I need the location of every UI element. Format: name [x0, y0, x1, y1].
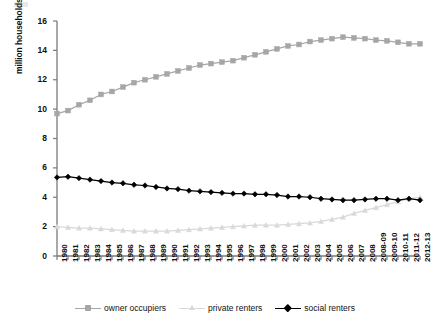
data-point — [330, 36, 335, 41]
data-point — [385, 38, 390, 43]
legend-entry[interactable]: owner occupiers — [75, 303, 166, 313]
data-point — [164, 186, 169, 191]
data-point — [120, 181, 125, 186]
x-axis-tick-label: 1983 — [93, 244, 102, 262]
data-point — [297, 42, 302, 47]
x-axis-tick-label: 1988 — [148, 244, 157, 262]
data-point — [98, 178, 103, 183]
x-axis-tick-label: 2011-12 — [412, 233, 421, 262]
x-axis-tick-label: 1981 — [71, 244, 80, 262]
x-axis-tick-label: 2002 — [302, 244, 311, 262]
x-axis-tick-label: 2000 — [280, 244, 289, 262]
x-axis-tick-label: 1985 — [115, 244, 124, 262]
data-point — [264, 49, 269, 54]
x-axis-tick-label: 2007 — [357, 244, 366, 262]
data-point — [341, 35, 346, 40]
data-point — [99, 92, 104, 97]
legend-swatch-icon — [179, 304, 205, 312]
x-axis-tick-label: 1984 — [104, 244, 113, 262]
x-axis-tick-label: 1991 — [181, 244, 190, 262]
x-axis-tick-label: 1993 — [203, 244, 212, 262]
legend-entry[interactable]: social renters — [275, 303, 355, 313]
data-point — [165, 71, 170, 76]
x-axis-tick-label: 1986 — [126, 244, 135, 262]
data-point — [153, 184, 158, 189]
data-point — [186, 188, 191, 193]
legend-swatch-icon — [275, 304, 301, 312]
data-point — [384, 196, 389, 201]
data-point — [65, 174, 70, 179]
data-point — [286, 44, 291, 49]
legend-label: owner occupiers — [104, 303, 166, 313]
data-point — [197, 189, 202, 194]
x-axis-tick-label: 1982 — [82, 244, 91, 262]
data-point — [296, 194, 301, 199]
data-point — [76, 175, 81, 180]
data-point — [230, 191, 235, 196]
data-point — [351, 197, 356, 202]
data-point — [275, 47, 280, 52]
data-point — [131, 182, 136, 187]
legend-label: private renters — [208, 303, 262, 313]
chart-legend: owner occupiersprivate renterssocial ren… — [0, 303, 430, 313]
x-axis-tick-label: 1994 — [214, 244, 223, 262]
data-point — [88, 98, 93, 103]
data-point — [418, 41, 423, 46]
data-point — [407, 41, 412, 46]
x-axis-tick-label: 2006 — [346, 244, 355, 262]
x-axis-tick-label: 1999 — [269, 244, 278, 262]
data-point — [340, 197, 345, 202]
series-private-renters — [55, 195, 423, 233]
data-point — [396, 40, 401, 45]
data-point — [208, 189, 213, 194]
data-point — [121, 85, 126, 90]
data-point — [87, 177, 92, 182]
x-axis-tick-label: 2010-11 — [401, 233, 410, 262]
data-point — [176, 69, 181, 74]
x-axis-tick-label: 2008-09 — [379, 233, 388, 262]
data-point — [175, 186, 180, 191]
data-point — [231, 58, 236, 63]
data-point — [187, 66, 192, 71]
series-line — [57, 37, 420, 113]
data-point — [132, 80, 137, 85]
x-axis-tick-label: 1998 — [258, 244, 267, 262]
data-point — [143, 77, 148, 82]
data-point — [219, 190, 224, 195]
data-point — [363, 36, 368, 41]
data-point — [77, 102, 82, 107]
data-point — [285, 194, 290, 199]
data-point — [352, 35, 357, 40]
data-point — [154, 74, 159, 79]
data-point — [55, 111, 60, 116]
data-point — [319, 38, 324, 43]
legend-swatch-icon — [75, 304, 101, 312]
data-point — [253, 52, 258, 57]
x-axis-tick-label: 1992 — [192, 244, 201, 262]
data-point — [109, 180, 114, 185]
data-point — [274, 192, 279, 197]
x-axis-tick-label: 2005 — [335, 244, 344, 262]
data-point — [54, 175, 59, 180]
series-line — [57, 197, 420, 231]
data-point — [329, 197, 334, 202]
legend-entry[interactable]: private renters — [179, 303, 262, 313]
data-point — [198, 63, 203, 68]
x-axis-tick-label: 1989 — [159, 244, 168, 262]
x-axis-tick-label: 1990 — [170, 244, 179, 262]
data-point — [142, 183, 147, 188]
series-owner-occupiers — [55, 35, 423, 116]
data-point — [220, 60, 225, 65]
data-point — [374, 38, 379, 43]
x-axis-tick-label: 2012-13 — [423, 233, 432, 262]
data-point — [242, 55, 247, 60]
data-point — [263, 192, 268, 197]
x-axis-tick-label: 2008 — [368, 244, 377, 262]
data-point — [362, 197, 367, 202]
data-point — [252, 192, 257, 197]
series-social-renters — [54, 174, 422, 203]
data-point — [308, 39, 313, 44]
data-point — [66, 108, 71, 113]
